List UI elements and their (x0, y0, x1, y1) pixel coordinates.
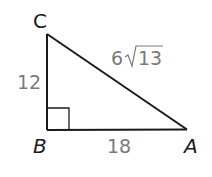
vertex-label-a: A (182, 134, 198, 158)
triangle-diagram: C B A 12 18 6 13 (0, 0, 212, 177)
side-ba (47, 130, 187, 131)
vertex-label-b: B (33, 134, 47, 158)
side-label-cb: 12 (17, 71, 41, 93)
side-label-ba: 18 (107, 135, 131, 157)
right-angle-marker (47, 108, 69, 130)
vertex-label-c: C (33, 9, 47, 33)
side-label-ca-coefficient: 6 (111, 47, 123, 69)
side-label-ca: 6 13 (111, 46, 163, 69)
side-label-ca-radicand: 13 (138, 47, 162, 69)
